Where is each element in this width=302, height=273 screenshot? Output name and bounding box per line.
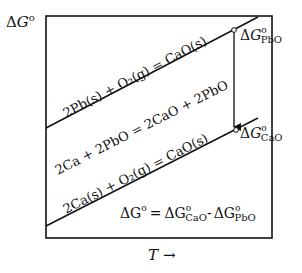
pbo-point-label: ΔGoPbO (240, 25, 282, 45)
diagram-canvas: ΔGo 2Pb(s) + O₂(g) = CaO(s) 2Ca + 2PbO =… (0, 0, 302, 273)
pbo-point (232, 28, 237, 33)
delta-g-equation: ΔGo=ΔGoCaO-ΔGoPbO (120, 203, 256, 223)
cao-point-label: ΔGoCaO (240, 123, 283, 143)
x-axis-label: T→ (148, 246, 176, 264)
cao-point (234, 128, 239, 133)
y-axis-label: ΔGo (6, 12, 35, 31)
